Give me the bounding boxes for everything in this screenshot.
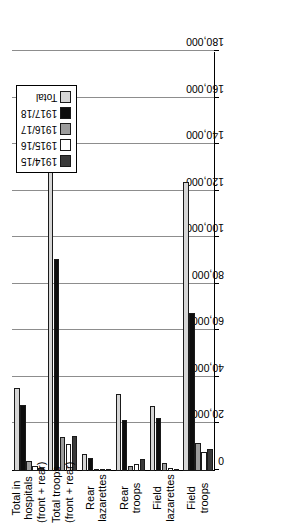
bar — [156, 418, 161, 471]
bar-group — [114, 0, 148, 527]
bar — [100, 469, 105, 471]
bar-group — [12, 0, 46, 527]
category-label-line: Rear — [84, 473, 97, 523]
bar — [20, 405, 25, 471]
bar — [207, 449, 212, 471]
legend-item: 1916/17 — [21, 123, 71, 135]
bar-group — [147, 0, 181, 527]
legend-item: 1914/15 — [21, 155, 71, 167]
bar — [162, 463, 167, 471]
bar — [128, 466, 133, 471]
category-label: Rearlazarettes — [84, 473, 109, 523]
bar — [168, 468, 173, 471]
bar — [174, 469, 179, 471]
bar — [26, 461, 31, 471]
category-label: Total inhospitals(front + rear) — [10, 473, 48, 523]
category-label-line: Rear — [118, 473, 131, 523]
category-label-line: Total troops — [50, 473, 63, 523]
bar-chart: 020,00040,00060,00080,000100,000120,0001… — [0, 0, 285, 527]
bar — [54, 259, 59, 471]
legend-label: 1915/16 — [21, 140, 57, 151]
bar-group — [46, 0, 80, 527]
legend-swatch — [60, 155, 71, 167]
chart-legend: 1914/151915/161916/171917/18Total — [16, 85, 77, 173]
category-label-line: lazarettes — [96, 473, 109, 523]
legend-label: 1917/18 — [21, 108, 57, 119]
category-label: Total troops(front + rear) — [50, 473, 75, 523]
category-label-line: troops — [198, 473, 211, 523]
chart-rotated-frame: 020,00040,00060,00080,000100,000120,0001… — [0, 0, 285, 527]
bar — [14, 388, 19, 471]
bar — [94, 469, 99, 471]
tick-label: 0 — [218, 455, 224, 467]
bar — [189, 313, 194, 471]
legend-swatch — [60, 123, 71, 135]
category-label-line: Field — [185, 473, 198, 523]
legend-swatch — [60, 139, 71, 151]
bar — [116, 394, 121, 471]
category-label-line: lazarettes — [164, 473, 177, 523]
bar — [122, 420, 127, 471]
bar — [201, 452, 206, 471]
bar — [183, 182, 188, 471]
bar-group — [181, 0, 215, 527]
legend-item: 1915/16 — [21, 139, 71, 151]
category-label-line: (front + rear) — [35, 473, 48, 523]
bar — [82, 454, 87, 471]
category-label: Fieldtroops — [185, 473, 210, 523]
category-label: Reartroops — [118, 473, 143, 523]
category-label-line: (front + rear) — [63, 473, 76, 523]
category-label-line: hospitals — [22, 473, 35, 523]
bar — [140, 459, 145, 471]
bar-group — [80, 0, 114, 527]
bar — [150, 406, 155, 471]
legend-label: Total — [36, 92, 57, 103]
category-label-line: Field — [151, 473, 164, 523]
legend-label: 1916/17 — [21, 124, 57, 135]
bar — [88, 458, 93, 471]
legend-label: 1914/15 — [21, 156, 57, 167]
category-label-line: Total in — [10, 473, 23, 523]
legend-item: Total — [36, 91, 71, 103]
category-label: Fieldlazarettes — [151, 473, 176, 523]
bar — [195, 443, 200, 471]
bar — [134, 464, 139, 471]
category-label-line: troops — [130, 473, 143, 523]
legend-swatch — [60, 91, 71, 103]
legend-item: 1917/18 — [21, 107, 71, 119]
legend-swatch — [60, 107, 71, 119]
bar — [106, 469, 111, 471]
